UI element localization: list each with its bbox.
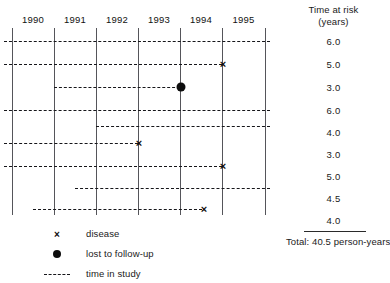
legend-label-lost-to-followup: lost to follow-up	[86, 244, 154, 264]
year-label-1992: 1992	[96, 14, 138, 25]
disease-marker-9: ×	[201, 204, 207, 215]
subject-line-8	[75, 188, 270, 189]
disease-marker-6: ×	[136, 138, 142, 149]
time-at-risk-header-line1: Time at risk	[288, 4, 379, 16]
legend-item-time-in-study: time in study	[40, 264, 270, 283]
time-at-risk-value-5: 4.0	[288, 127, 379, 138]
time-at-risk-value-7: 5.0	[288, 171, 379, 182]
legend: × disease lost to follow-up time in stud…	[40, 224, 270, 283]
x-marker-icon: ×	[40, 224, 74, 244]
subject-line-6	[4, 143, 138, 144]
gridline-1994	[180, 28, 181, 215]
gridline-1993	[138, 28, 139, 215]
time-at-risk-value-6: 3.0	[288, 149, 379, 160]
legend-item-lost-to-followup: lost to follow-up	[40, 244, 270, 264]
subject-line-5	[96, 126, 270, 127]
year-label-1991: 1991	[54, 14, 96, 25]
plot-area: 1990 1991 1992 1993 1994 1995 × × ×	[0, 0, 290, 225]
time-at-risk-value-4: 6.0	[288, 105, 379, 116]
time-at-risk-value-9: 4.0	[288, 215, 379, 226]
dashed-line-icon	[40, 264, 74, 283]
year-label-1990: 1990	[12, 14, 54, 25]
legend-label-disease: disease	[86, 224, 119, 244]
subject-line-7	[4, 166, 222, 167]
total-person-years: Total: 40.5 person-years	[286, 236, 381, 247]
gridline-1996	[265, 28, 266, 215]
disease-marker-7: ×	[220, 161, 226, 172]
subject-line-1	[4, 41, 270, 42]
subject-line-4	[4, 110, 270, 111]
year-label-1995: 1995	[222, 14, 265, 25]
year-label-1993: 1993	[138, 14, 180, 25]
filled-circle-marker-icon	[40, 244, 74, 264]
time-at-risk-header: Time at risk (years)	[288, 4, 379, 28]
subject-line-3	[54, 87, 180, 88]
time-at-risk-value-3: 3.0	[288, 82, 379, 93]
gridline-1992	[96, 28, 97, 215]
lost-to-followup-marker-3	[177, 83, 186, 92]
legend-item-disease: × disease	[40, 224, 270, 244]
disease-marker-2: ×	[220, 59, 226, 70]
subject-line-9	[33, 209, 202, 210]
time-at-risk-value-2: 5.0	[288, 59, 379, 70]
total-divider	[304, 231, 366, 232]
legend-label-time-in-study: time in study	[86, 264, 141, 283]
gridline-1990	[12, 28, 13, 215]
time-at-risk-column: Time at risk (years) 6.0 5.0 3.0 6.0 4.0…	[288, 0, 379, 283]
subject-line-2	[4, 64, 222, 65]
year-label-1994: 1994	[180, 14, 222, 25]
time-at-risk-header-line2: (years)	[288, 16, 379, 28]
time-at-risk-value-8: 4.5	[288, 193, 379, 204]
gridline-1991	[54, 28, 55, 215]
gridline-1995	[222, 28, 223, 215]
time-at-risk-value-1: 6.0	[288, 36, 379, 47]
